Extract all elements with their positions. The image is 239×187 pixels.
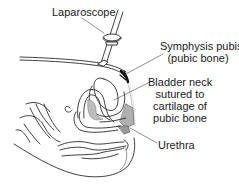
label-symphysis-pubis: Symphysis pubis (pubic bone) — [160, 40, 236, 64]
label-bladder-line2: sutured to — [148, 88, 212, 100]
label-bladder-line1: Bladder neck — [148, 76, 212, 88]
label-bladder-line3: cartilage of — [148, 100, 212, 112]
label-bladder-line4: pubic bone — [148, 112, 212, 124]
sacrum — [16, 102, 60, 144]
label-bladder-neck: Bladder neck sutured to cartilage of pub… — [148, 76, 212, 124]
body-contour — [14, 138, 135, 177]
uterus — [77, 89, 114, 122]
label-symphysis-line2: (pubic bone) — [160, 52, 236, 64]
laparoscope-icon — [98, 10, 123, 66]
label-laparoscope: Laparoscope — [52, 6, 116, 18]
rectum — [58, 140, 128, 159]
label-urethra: Urethra — [158, 139, 195, 151]
label-symphysis-line1: Symphysis pubis — [160, 40, 236, 52]
abdominal-wall — [20, 57, 126, 75]
